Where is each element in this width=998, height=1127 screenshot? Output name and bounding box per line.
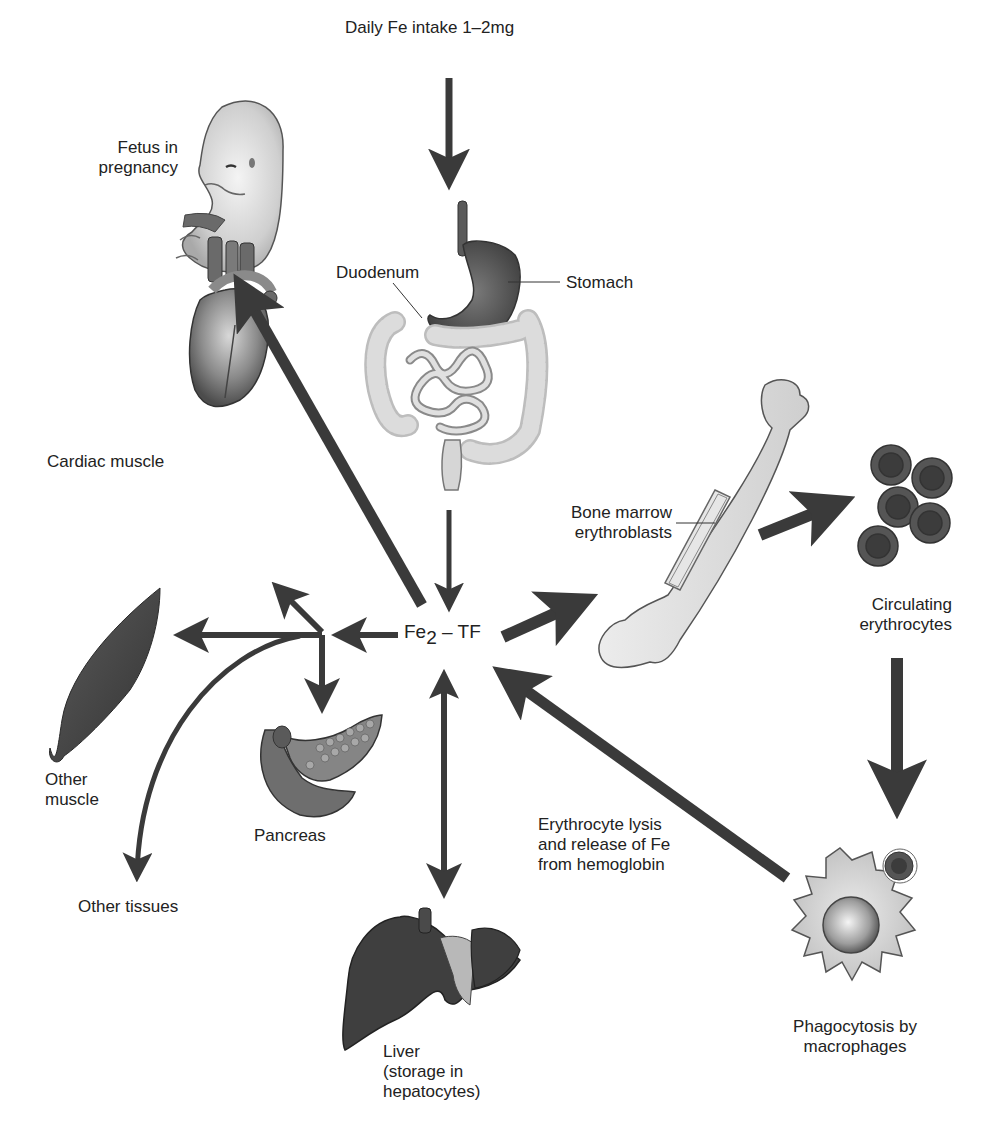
label-bone-marrow: Bone marrow erythroblasts (560, 503, 672, 543)
label-erythrocyte-lysis: Erythrocyte lysis and release of Fe from… (538, 815, 670, 875)
label-fetus: Fetus in pregnancy (90, 138, 178, 178)
erythrocytes-illustration (858, 445, 952, 566)
label-bone-line2: erythroblasts (560, 523, 672, 543)
label-other-muscle-line2: muscle (45, 790, 99, 810)
label-daily-intake: Daily Fe intake 1–2mg (345, 18, 514, 38)
label-lysis-line1: Erythrocyte lysis (538, 815, 670, 835)
arrow-bone-to-erythrocytes (760, 502, 842, 535)
label-circ-line1: Circulating (840, 595, 952, 615)
label-stomach: Stomach (566, 273, 633, 293)
label-lysis-line2: and release of Fe (538, 835, 670, 855)
liver-illustration (343, 908, 520, 1050)
label-phagocytosis: Phagocytosis by macrophages (790, 1017, 920, 1057)
muscle-illustration (49, 588, 160, 762)
fe-subscript: 2 (426, 627, 437, 648)
label-lysis-line3: from hemoglobin (538, 855, 670, 875)
label-other-tissues: Other tissues (78, 897, 178, 917)
label-liver-line2: (storage in (383, 1062, 480, 1082)
label-fetus-line1: Fetus in (90, 138, 178, 158)
label-circ-line2: erythrocytes (840, 615, 952, 635)
label-fe2-tf: Fe2 – TF (404, 622, 481, 648)
fe-suffix: – TF (437, 621, 481, 642)
pancreas-illustration (261, 715, 382, 817)
label-pancreas: Pancreas (254, 826, 326, 846)
label-duodenum: Duodenum (336, 263, 419, 283)
label-fetus-line2: pregnancy (90, 158, 178, 178)
label-bone-line1: Bone marrow (560, 503, 672, 523)
label-cardiac-muscle: Cardiac muscle (47, 452, 164, 472)
label-phago-line2: macrophages (790, 1037, 920, 1057)
fe-prefix: Fe (404, 621, 426, 642)
macrophage-illustration (792, 848, 917, 980)
arrow-branch-to-heart (278, 588, 322, 632)
label-circulating-erythrocytes: Circulating erythrocytes (840, 595, 952, 635)
stomach-intestine-illustration (375, 201, 560, 490)
label-other-muscle-line1: Other (45, 770, 99, 790)
arrow-fetf-to-bone (503, 600, 585, 637)
label-phago-line1: Phagocytosis by (790, 1017, 920, 1037)
label-liver-line1: Liver (383, 1042, 480, 1062)
label-liver-line3: hepatocytes) (383, 1082, 480, 1102)
label-other-muscle: Other muscle (45, 770, 99, 810)
label-liver: Liver (storage in hepatocytes) (383, 1042, 480, 1102)
